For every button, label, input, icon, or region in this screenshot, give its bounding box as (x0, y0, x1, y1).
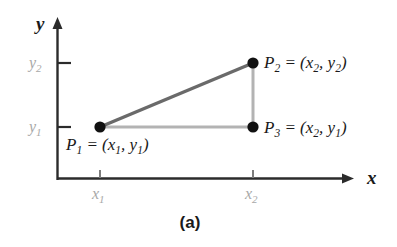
triangle-hypotenuse (100, 63, 253, 127)
y-tick-label-y2-sub: 2 (36, 62, 42, 74)
point-label-p1-main: P (66, 135, 76, 154)
y-tick-label-y2: y2 (29, 55, 42, 74)
y-tick-label-y1-sub: 1 (36, 126, 42, 138)
point-label-p2: P2 = (x2, y2) (264, 54, 347, 75)
y-tick-label-y1: y1 (29, 119, 42, 138)
point-label-p3: P3 = (x2, y1) (264, 119, 347, 140)
figure-caption: (a) (0, 214, 380, 231)
point-label-p2-sub: 2 (274, 62, 280, 74)
data-point-p1[interactable] (94, 121, 105, 132)
y-axis-label: y (36, 14, 44, 33)
point-label-p2-coords: = (x2, y2) (284, 53, 346, 72)
x-axis-arrowhead (342, 174, 354, 184)
y-axis-arrowhead (53, 17, 63, 29)
x-axis-label: x (367, 168, 377, 187)
x-tick-label-x1-sub: 1 (99, 193, 105, 205)
point-label-p1-sub: 1 (76, 144, 82, 156)
point-label-p1: P1 = (x1, y1) (66, 136, 149, 157)
x-tick-label-x1: x1 (92, 186, 105, 205)
point-label-p3-sub: 3 (274, 127, 280, 139)
data-point-p2[interactable] (247, 57, 258, 68)
point-label-p3-coords: = (x2, y1) (284, 118, 346, 137)
point-label-p3-main: P (264, 118, 274, 137)
x-tick-label-x2: x2 (245, 186, 258, 205)
distance-formula-figure: y x y2 y1 x1 x2 P1 = (x1, y1) P2 = (x2, … (0, 0, 397, 247)
point-label-p2-main: P (264, 53, 274, 72)
data-point-p3[interactable] (247, 121, 258, 132)
x-tick-label-x2-sub: 2 (252, 193, 258, 205)
point-label-p1-coords: = (x1, y1) (86, 135, 148, 154)
